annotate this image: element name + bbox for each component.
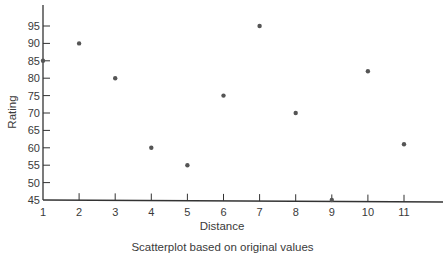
y-tick-label: 50 [28,177,40,189]
x-tick-label: 2 [76,206,82,218]
data-point [41,59,45,63]
data-point [330,198,334,202]
x-axis-line [43,200,443,202]
x-axis-title: Distance [200,220,245,232]
data-point [113,76,117,80]
x-tick-label: 7 [257,206,263,218]
y-tick-label: 85 [28,55,40,67]
x-tick-label: 4 [148,206,154,218]
y-tick-label: 70 [28,107,40,119]
y-tick-label: 45 [28,194,40,206]
x-tick-label: 1 [40,206,46,218]
x-tick-label: 5 [184,206,190,218]
data-point [257,24,261,28]
x-tick-label: 3 [112,206,118,218]
x-tick-label: 9 [329,206,335,218]
axes [43,5,443,202]
y-tick-label: 60 [28,142,40,154]
y-axis-ticks: 4550556065707580859095 [28,20,50,206]
y-tick-label: 65 [28,124,40,136]
x-tick-label: 10 [362,206,374,218]
x-tick-label: 11 [398,206,409,218]
figure-caption: Scatterplot based on original values [0,241,445,253]
y-axis-title: Rating [6,95,18,128]
data-point [149,146,153,150]
y-tick-label: 80 [28,72,40,84]
y-tick-label: 75 [28,90,40,102]
y-tick-label: 55 [28,159,40,171]
y-tick-label: 90 [28,37,40,49]
data-point [294,111,298,115]
x-tick-label: 6 [220,206,226,218]
x-axis-ticks: 1234567891011 [40,193,410,218]
y-tick-label: 95 [28,20,40,32]
x-tick-label: 8 [293,206,299,218]
data-point [77,41,81,45]
data-points [41,24,406,202]
data-point [221,93,225,97]
data-point [366,69,370,73]
data-point [185,163,189,167]
data-point [402,142,406,146]
